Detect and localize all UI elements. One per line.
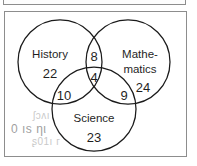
scanned-page: ʃɔʌı 0 ıs ƞι ʂ01ı г History 22 Mathe- ma… xyxy=(0,0,197,166)
mathematics-science-count: 9 xyxy=(111,88,137,103)
science-set-label: Science xyxy=(63,112,125,124)
mathematics-set-label-line2: matics xyxy=(109,63,171,75)
top-partial-box xyxy=(3,0,186,5)
history-only-count: 22 xyxy=(19,66,81,81)
history-mathematics-count: 8 xyxy=(81,49,107,64)
science-only-count: 23 xyxy=(63,130,125,145)
history-set-label: History xyxy=(19,48,81,60)
all-three-count: 4 xyxy=(81,70,107,85)
mathematics-set-label-line1: Mathe- xyxy=(109,48,171,60)
history-science-count: 10 xyxy=(51,88,77,103)
venn-diagram-figure-box: ʃɔʌı 0 ıs ƞι ʂ01ı г History 22 Mathe- ma… xyxy=(4,11,187,157)
